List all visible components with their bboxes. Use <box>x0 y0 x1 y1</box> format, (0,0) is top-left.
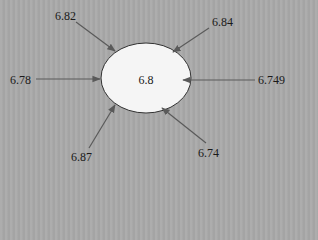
input-value-bottom-left: 6.87 <box>71 150 92 164</box>
center-value: 6.8 <box>126 73 166 87</box>
arrow-top-left <box>76 22 115 51</box>
input-value-bottom-right: 6.74 <box>198 146 219 160</box>
arrow-bottom-right <box>162 108 206 143</box>
input-value-top-left: 6.82 <box>55 9 76 23</box>
input-value-top-right: 6.84 <box>212 15 233 29</box>
arrow-bottom-left <box>89 105 115 148</box>
input-value-left: 6.78 <box>10 73 31 87</box>
input-value-right: 6.749 <box>258 73 285 87</box>
arrow-top-right <box>173 28 209 52</box>
